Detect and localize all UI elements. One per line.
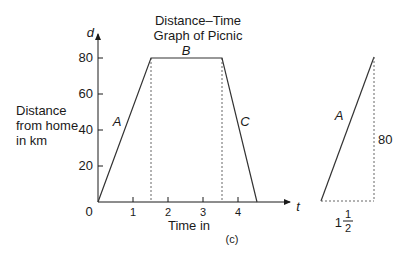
segment-label-c: C xyxy=(240,114,250,129)
segment-label-b: B xyxy=(182,43,191,58)
triangle-hypotenuse xyxy=(321,57,374,201)
x-tick-1: 1 xyxy=(130,206,136,218)
y-axis-label-line-2: from home xyxy=(16,118,78,133)
slope-triangle: A 80 1 1 2 xyxy=(321,57,392,234)
triangle-base-whole: 1 xyxy=(335,215,342,230)
y-tick-20: 20 xyxy=(79,158,93,173)
distance-line xyxy=(98,58,257,202)
title-line-1: Distance–Time xyxy=(155,13,241,28)
x-tick-2: 2 xyxy=(165,206,171,218)
y-tick-60: 60 xyxy=(79,86,93,101)
y-tick-40: 40 xyxy=(79,122,93,137)
x-axis-symbol: t xyxy=(296,199,301,214)
triangle-base-numerator: 1 xyxy=(345,208,351,220)
triangle-height-label: 80 xyxy=(378,132,392,147)
triangle-base-denominator: 2 xyxy=(345,222,351,234)
caption: (c) xyxy=(226,233,239,245)
y-axis-symbol: d xyxy=(87,25,95,40)
x-ticks: 1 2 3 4 xyxy=(130,197,241,218)
y-axis-label-line-1: Distance xyxy=(16,103,67,118)
distance-time-graph: Distance–Time Graph of Picnic d t 0 20 4… xyxy=(0,0,409,258)
y-axis-label-line-3: in km xyxy=(16,133,47,148)
title-line-2: Graph of Picnic xyxy=(154,28,243,43)
y-ticks: 20 40 60 80 xyxy=(79,50,103,173)
x-axis-label: Time in xyxy=(168,218,210,233)
x-tick-4: 4 xyxy=(235,206,241,218)
origin-label: 0 xyxy=(85,204,92,219)
y-tick-80: 80 xyxy=(79,50,93,65)
triangle-label-a: A xyxy=(334,108,344,123)
x-tick-3: 3 xyxy=(200,206,206,218)
segment-label-a: A xyxy=(112,114,122,129)
